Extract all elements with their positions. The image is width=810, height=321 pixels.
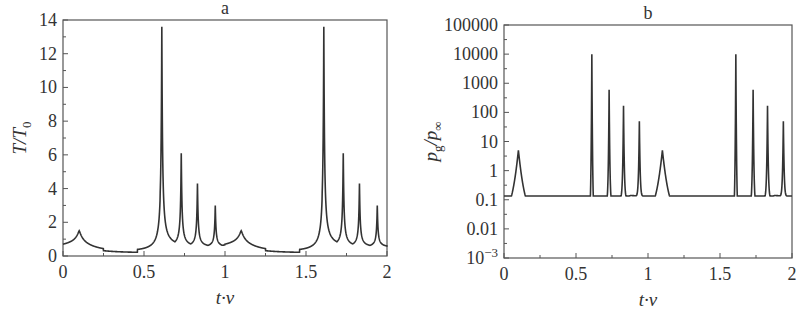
chart-a-title: a xyxy=(221,0,229,18)
x-tick-label: 0.5 xyxy=(565,264,588,284)
y-tick-label: 2 xyxy=(48,212,57,232)
x-tick-label: 1.5 xyxy=(295,262,318,282)
y-tick-label: 10−3 xyxy=(466,245,498,268)
plot-frame-b xyxy=(504,25,792,258)
y-tick-label: 0.01 xyxy=(467,219,499,239)
y-tick-label: 4 xyxy=(48,179,57,199)
y-axis-label: pg/p∞ xyxy=(420,121,445,163)
plot-frame-a xyxy=(63,20,387,256)
series-line-a xyxy=(63,27,387,253)
figure: a0246810121400.511.52t·νT/T0b10−30.010.1… xyxy=(0,0,810,321)
x-tick-label: 0 xyxy=(59,262,68,282)
x-tick-label: 0 xyxy=(500,264,509,284)
y-tick-label: 0 xyxy=(48,246,57,266)
x-axis-label: t·ν xyxy=(639,289,658,310)
chart-b: b10−30.010.111010010001000010000000.511.… xyxy=(420,3,797,310)
y-tick-label: 10000 xyxy=(453,44,498,64)
y-tick-label: 14 xyxy=(39,10,57,30)
y-tick-label: 1000 xyxy=(462,73,498,93)
y-tick-label: 10 xyxy=(480,132,498,152)
y-tick-label: 1 xyxy=(489,161,498,181)
chart-a: a0246810121400.511.52t·νT/T0 xyxy=(9,0,392,308)
x-tick-label: 1 xyxy=(644,264,653,284)
y-tick-label: 0.1 xyxy=(476,190,499,210)
y-tick-label: 100000 xyxy=(444,15,498,35)
y-tick-label: 8 xyxy=(48,111,57,131)
x-axis-label: t·ν xyxy=(216,287,235,308)
x-tick-label: 1 xyxy=(221,262,230,282)
x-tick-label: 2 xyxy=(788,264,797,284)
x-tick-label: 1.5 xyxy=(709,264,732,284)
series-line-b xyxy=(504,54,792,196)
y-tick-label: 12 xyxy=(39,44,57,64)
chart-b-title: b xyxy=(644,3,653,23)
x-tick-label: 2 xyxy=(383,262,392,282)
y-tick-label: 100 xyxy=(471,102,498,122)
x-tick-label: 0.5 xyxy=(133,262,156,282)
y-tick-label: 6 xyxy=(48,145,57,165)
y-axis-label: T/T0 xyxy=(9,122,34,155)
y-tick-label: 10 xyxy=(39,77,57,97)
